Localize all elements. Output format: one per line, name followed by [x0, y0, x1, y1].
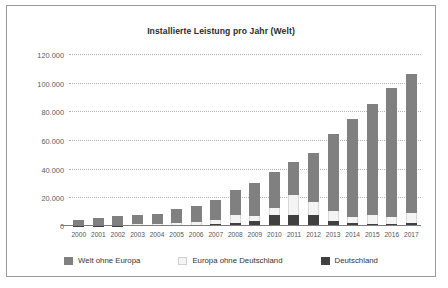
- x-axis-tick-label: 2004: [150, 231, 165, 238]
- stacked-bar[interactable]: [406, 74, 417, 226]
- bar-group[interactable]: 2000: [69, 54, 89, 226]
- chart-legend: Welt ohne EuropaEuropa ohne DeutschlandD…: [7, 256, 435, 265]
- bar-segment-welt-ohne-europa[interactable]: [386, 88, 397, 217]
- bar-segment-welt-ohne-europa[interactable]: [367, 104, 378, 215]
- stacked-bar[interactable]: [191, 206, 202, 226]
- bar-group[interactable]: 2012: [304, 54, 324, 226]
- x-axis-tick-label: 2013: [326, 231, 341, 238]
- legend-label: Europa ohne Deutschland: [192, 256, 282, 265]
- stacked-bar[interactable]: [347, 119, 358, 226]
- bar-group[interactable]: 2015: [362, 54, 382, 226]
- legend-item[interactable]: Europa ohne Deutschland: [178, 256, 282, 265]
- bar-group[interactable]: 2007: [206, 54, 226, 226]
- bar-segment-welt-ohne-europa[interactable]: [132, 215, 143, 225]
- bar-segment-welt-ohne-europa[interactable]: [347, 119, 358, 218]
- bar-segment-europa-ohne-deutschland[interactable]: [288, 195, 299, 215]
- bar-segment-europa-ohne-deutschland[interactable]: [367, 215, 378, 224]
- bar-segment-welt-ohne-europa[interactable]: [328, 134, 339, 211]
- x-axis-tick-label: 2009: [248, 231, 263, 238]
- bar-group[interactable]: 2013: [323, 54, 343, 226]
- bar-segment-welt-ohne-europa[interactable]: [152, 214, 163, 224]
- stacked-bar[interactable]: [328, 134, 339, 226]
- bar-group[interactable]: 2011: [284, 54, 304, 226]
- legend-item[interactable]: Welt ohne Europa: [64, 256, 140, 265]
- y-axis-tick-label: 100.000: [37, 79, 64, 88]
- bar-segment-welt-ohne-europa[interactable]: [406, 74, 417, 213]
- bar-group[interactable]: 2014: [343, 54, 363, 226]
- legend-item[interactable]: Deutschland: [321, 256, 378, 265]
- bar-group[interactable]: 2005: [167, 54, 187, 226]
- x-axis-tick-label: 2007: [208, 231, 223, 238]
- stacked-bar[interactable]: [230, 190, 241, 226]
- bar-segment-welt-ohne-europa[interactable]: [308, 153, 319, 202]
- chart-title: Installierte Leistung pro Jahr (Welt): [7, 26, 435, 36]
- bar-group[interactable]: 2001: [89, 54, 109, 226]
- chart-frame: Installierte Leistung pro Jahr (Welt) 02…: [6, 5, 436, 277]
- bar-segment-welt-ohne-europa[interactable]: [210, 200, 221, 221]
- bar-segment-welt-ohne-europa[interactable]: [249, 183, 260, 216]
- bar-segment-europa-ohne-deutschland[interactable]: [328, 211, 339, 221]
- bar-group[interactable]: 2003: [128, 54, 148, 226]
- bar-segment-welt-ohne-europa[interactable]: [171, 209, 182, 222]
- x-axis-line: [61, 225, 421, 226]
- bar-segment-europa-ohne-deutschland[interactable]: [269, 208, 280, 215]
- x-axis-tick-label: 2011: [287, 231, 301, 238]
- y-axis-tick-label: 0: [60, 222, 64, 231]
- x-axis-tick-label: 2010: [267, 231, 282, 238]
- bar-segment-europa-ohne-deutschland[interactable]: [230, 215, 241, 223]
- x-axis-tick-label: 2005: [169, 231, 184, 238]
- y-axis-tick-label: 120.000: [37, 51, 64, 60]
- bar-group[interactable]: 2006: [186, 54, 206, 226]
- stacked-bar[interactable]: [308, 153, 319, 226]
- legend-swatch-world-icon: [64, 257, 73, 265]
- bar-group[interactable]: 2017: [402, 54, 422, 226]
- bar-group[interactable]: 2009: [245, 54, 265, 226]
- bar-segment-welt-ohne-europa[interactable]: [288, 162, 299, 196]
- x-axis-tick-label: 2000: [71, 231, 86, 238]
- stacked-bar[interactable]: [367, 104, 378, 226]
- bar-segment-europa-ohne-deutschland[interactable]: [386, 217, 397, 224]
- x-axis-tick-label: 2012: [306, 231, 321, 238]
- legend-swatch-germany-icon: [321, 257, 330, 265]
- bar-segment-welt-ohne-europa[interactable]: [191, 206, 202, 222]
- bar-segment-welt-ohne-europa[interactable]: [112, 216, 123, 225]
- y-axis-tick-label: 80.000: [41, 108, 64, 117]
- bar-group[interactable]: 2004: [147, 54, 167, 226]
- x-axis-tick-label: 2016: [384, 231, 399, 238]
- plot-area: 020.00040.00060.00080.000100.000120.000 …: [69, 54, 421, 226]
- y-axis-tick-label: 60.000: [41, 137, 64, 146]
- bar-group[interactable]: 2002: [108, 54, 128, 226]
- legend-swatch-europe-icon: [178, 257, 187, 265]
- x-axis-tick-label: 2001: [91, 231, 106, 238]
- bar-segment-welt-ohne-europa[interactable]: [269, 172, 280, 208]
- bar-segment-welt-ohne-europa[interactable]: [230, 190, 241, 215]
- bar-segment-europa-ohne-deutschland[interactable]: [406, 213, 417, 223]
- stacked-bar[interactable]: [386, 88, 397, 226]
- legend-label: Deutschland: [335, 256, 378, 265]
- x-axis-tick-label: 2003: [130, 231, 145, 238]
- x-axis-tick-label: 2008: [228, 231, 243, 238]
- bar-group[interactable]: 2016: [382, 54, 402, 226]
- y-axis-tick-label: 40.000: [41, 165, 64, 174]
- x-axis-tick-label: 2002: [111, 231, 126, 238]
- bar-segment-europa-ohne-deutschland[interactable]: [308, 202, 319, 215]
- x-axis-tick-label: 2006: [189, 231, 204, 238]
- y-axis-tick-label: 20.000: [41, 194, 64, 203]
- x-axis-tick-label: 2014: [345, 231, 360, 238]
- x-axis-tick-label: 2017: [404, 231, 419, 238]
- stacked-bar[interactable]: [269, 172, 280, 226]
- stacked-bar[interactable]: [171, 209, 182, 226]
- stacked-bar[interactable]: [288, 162, 299, 226]
- bar-series-container: 2000200120022003200420052006200720082009…: [69, 54, 421, 226]
- stacked-bar[interactable]: [249, 183, 260, 226]
- x-axis-tick-label: 2015: [365, 231, 380, 238]
- bar-group[interactable]: 2010: [265, 54, 285, 226]
- bar-group[interactable]: 2008: [226, 54, 246, 226]
- stacked-bar[interactable]: [210, 200, 221, 227]
- legend-label: Welt ohne Europa: [78, 256, 140, 265]
